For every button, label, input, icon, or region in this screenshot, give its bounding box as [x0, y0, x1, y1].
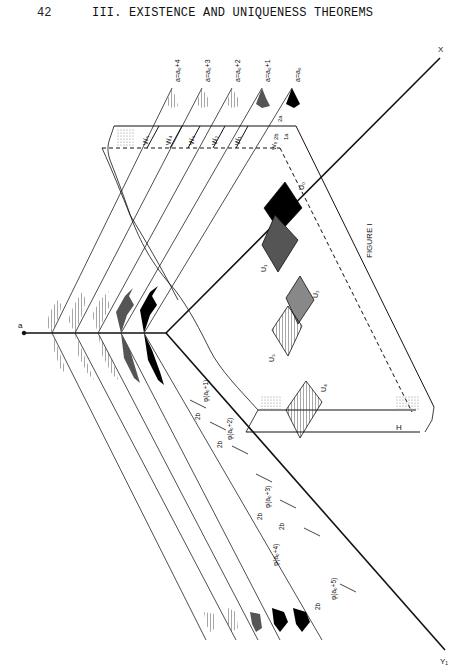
interval-2b-3: 2b — [256, 512, 263, 520]
figure-1-diagram: a X Y₁ H FIGURE I a=a₀ a=a₀+1 a=a₀+2 a=a… — [0, 0, 458, 668]
top-bumps — [166, 88, 300, 108]
h-label: H — [396, 423, 402, 432]
label-u4: U₄ — [320, 384, 327, 392]
level-label-0: a=a₀ — [294, 67, 301, 82]
label-u2: U₂ — [312, 290, 319, 298]
strip-w2: W₂ — [211, 135, 218, 145]
interval-2b-4: 2b — [278, 522, 285, 530]
strip-w3: W₃ — [188, 135, 195, 145]
dim-2b: 2b — [273, 133, 279, 140]
label-u0: U₀ — [298, 182, 305, 190]
level-label-4: a=a₀+4 — [174, 59, 181, 82]
interval-2b-2: 2b — [216, 440, 223, 448]
strip-w1: W₁ — [234, 135, 241, 145]
phi-label-2: φ(a₀+2) — [226, 418, 234, 440]
phi-label-1: φ(a₀+1) — [202, 380, 210, 402]
strip-w0: W₀ — [271, 141, 277, 150]
level-bumps-lower — [52, 333, 164, 385]
dim-1a: 1a — [283, 133, 289, 140]
dim-2a: 2a — [277, 115, 283, 122]
label-u3: U₃ — [268, 354, 275, 362]
strip-w5: W₅ — [142, 135, 149, 145]
figure-caption: FIGURE I — [365, 223, 374, 258]
y-axis-label: Y₁ — [440, 657, 448, 666]
level-label-3: a=a₀+3 — [204, 59, 211, 82]
label-u1: U₁ — [260, 264, 267, 272]
interval-2b-5: 2b — [314, 602, 321, 610]
level-label-1: a=a₀+1 — [264, 59, 271, 82]
strip-w4: W₄ — [165, 135, 172, 145]
phi-label-4: φ(a₀+4) — [272, 544, 280, 566]
interval-2b-1: 2b — [194, 412, 201, 420]
bottom-bumps — [204, 608, 310, 632]
phi-label-5: φ(a₀+5) — [330, 578, 338, 600]
origin-label: a — [18, 321, 23, 330]
region-u1 — [262, 215, 298, 272]
level-label-2: a=a₀+2 — [234, 59, 241, 82]
region-u4 — [286, 381, 322, 438]
x-axis-label: X — [438, 45, 444, 54]
phi-label-3: φ(a₀+3) — [264, 486, 272, 508]
level-curves — [52, 88, 322, 640]
